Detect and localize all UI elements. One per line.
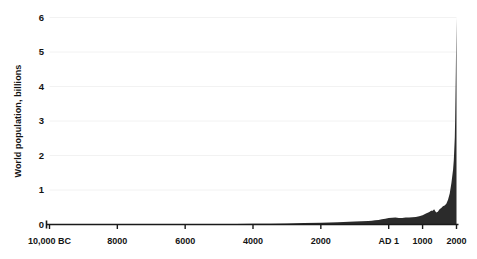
population-chart-figure: World population, billions 6543210 10,00… (0, 0, 477, 259)
x-axis-tick-label: 2000 (291, 236, 351, 246)
x-axis-tick-label: 2000 (427, 236, 477, 246)
x-axis-tick-label: 10,000 BC (20, 236, 80, 246)
x-axis-tick-label: 4000 (223, 236, 283, 246)
x-axis-tick-label: 6000 (155, 236, 215, 246)
x-axis-tick-label: 8000 (87, 236, 147, 246)
x-axis-tick-labels: 10,000 BC8000600040002000AD 110002000 (0, 0, 477, 259)
